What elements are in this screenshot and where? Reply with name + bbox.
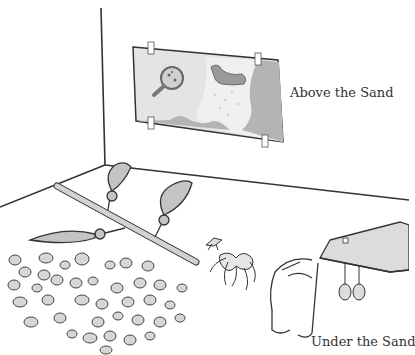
hanging-pods bbox=[339, 262, 365, 300]
label-above-the-sand: Above the Sand bbox=[290, 85, 393, 100]
insect bbox=[206, 238, 222, 250]
label-under-the-sand: Under the Sand bbox=[311, 334, 415, 349]
poster bbox=[133, 42, 283, 147]
pebble-pile bbox=[8, 253, 187, 354]
sand-table bbox=[271, 222, 409, 337]
three-leaf-paddles bbox=[30, 163, 192, 243]
seaweed-tangle bbox=[210, 253, 255, 290]
